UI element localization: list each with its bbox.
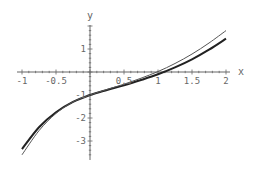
y-tick-label: -3 — [75, 136, 86, 146]
y-tick-label: -2 — [75, 113, 86, 123]
curves — [22, 31, 226, 155]
x-tick-label: -1 — [17, 76, 28, 86]
y-tick-label: 1 — [81, 44, 86, 54]
x-tick-label: 0.5 — [116, 76, 132, 86]
x-tick-label: 1.5 — [184, 76, 200, 86]
y-tick-label: -1 — [75, 90, 86, 100]
x-tick-label: -0.5 — [45, 76, 67, 86]
axes — [17, 25, 230, 160]
tick-labels: -1-0.50.511.521-1-2-3xy — [17, 10, 244, 146]
plot-area: -1-0.50.511.521-1-2-3xy — [0, 0, 259, 173]
y-axis-label: y — [87, 10, 93, 21]
x-axis-label: x — [238, 66, 244, 77]
thin-curve — [22, 31, 226, 155]
x-tick-label: 1 — [155, 76, 160, 86]
thick-curve — [22, 39, 226, 149]
x-tick-label: 2 — [223, 76, 228, 86]
